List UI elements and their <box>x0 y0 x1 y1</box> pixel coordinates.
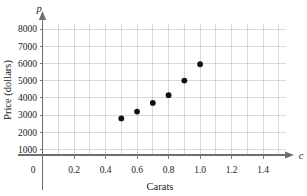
y-axis-variable-label: p <box>35 3 41 14</box>
scatter-plot-figure: 8000 7000 6000 5000 4000 3000 2000 1000 … <box>0 0 307 196</box>
y-axis <box>39 11 46 190</box>
vertical-gridlines <box>58 24 278 155</box>
origin-tick-label: 0 <box>31 165 36 175</box>
x-tick-label: 0.8 <box>163 165 175 175</box>
x-tick-label: 0.4 <box>100 165 112 175</box>
x-tick-label: 0.2 <box>68 165 80 175</box>
data-points-group <box>118 61 203 121</box>
data-point[interactable] <box>118 116 124 122</box>
data-point[interactable] <box>150 100 156 106</box>
y-tick-label: 2000 <box>18 128 37 138</box>
x-axis-title: Carats <box>147 181 174 192</box>
y-axis-title: Price (dollars) <box>2 60 14 120</box>
data-point[interactable] <box>181 78 187 84</box>
y-tick-label: 1000 <box>18 145 37 155</box>
x-tick-label: 1.0 <box>194 165 206 175</box>
horizontal-gridlines <box>43 29 287 149</box>
data-point[interactable] <box>197 61 203 67</box>
x-axis-arrow-icon <box>285 151 294 158</box>
y-tick-label: 8000 <box>18 24 37 34</box>
x-tick-label: 1.4 <box>257 165 269 175</box>
data-point[interactable] <box>166 92 172 98</box>
x-tick-label: 0.6 <box>131 165 143 175</box>
data-point[interactable] <box>134 109 140 115</box>
x-axis-tick-labels: 0.2 0.4 0.6 0.8 1.0 1.2 1.4 <box>68 165 269 175</box>
y-tick-label: 5000 <box>18 76 37 86</box>
y-tick-label: 4000 <box>18 93 37 103</box>
plot-canvas: 8000 7000 6000 5000 4000 3000 2000 1000 … <box>0 0 307 196</box>
x-axis <box>18 151 294 158</box>
y-tick-label: 7000 <box>18 42 37 52</box>
y-tick-label: 6000 <box>18 59 37 69</box>
x-axis-variable-label: c <box>299 150 304 161</box>
y-axis-tick-labels: 8000 7000 6000 5000 4000 3000 2000 1000 <box>18 24 37 154</box>
x-tick-label: 1.2 <box>226 165 238 175</box>
y-tick-label: 3000 <box>18 110 37 120</box>
